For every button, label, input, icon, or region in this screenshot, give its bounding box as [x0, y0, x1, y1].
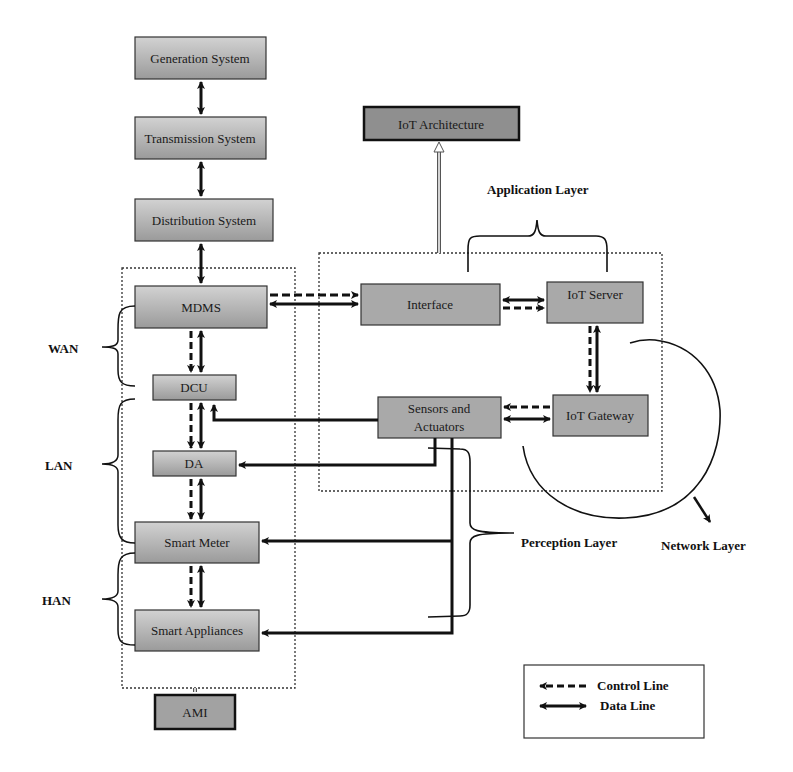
mdms-label: MDMS [181, 300, 221, 315]
iot-server-box[interactable]: IoT Server [547, 282, 643, 323]
interface-label: Interface [407, 297, 453, 312]
sensors-line1: Sensors and [408, 401, 471, 416]
legend-control-label: Control Line [597, 678, 669, 693]
ami-label: AMI [182, 705, 207, 720]
mdms-box[interactable]: MDMS [135, 286, 267, 328]
application-layer-label: Application Layer [487, 182, 589, 197]
transmission-system-box[interactable]: Transmission System [135, 117, 266, 159]
iot-server-label: IoT Server [567, 287, 623, 302]
distribution-system-label: Distribution System [152, 213, 256, 228]
han-brace [102, 553, 135, 645]
interface-server-links [503, 300, 544, 308]
mdms-interface-links [270, 295, 358, 304]
generation-system-box[interactable]: Generation System [135, 37, 266, 79]
iot-gateway-label: IoT Gateway [566, 408, 634, 423]
iot-hollow-arrow [434, 142, 444, 253]
gateway-sensors-links [504, 407, 550, 419]
legend-data-label: Data Line [600, 698, 655, 713]
generation-system-label: Generation System [150, 51, 249, 66]
sensors-line2: Actuators [414, 419, 465, 434]
smart-appliances-label: Smart Appliances [151, 623, 243, 638]
transmission-system-label: Transmission System [144, 131, 255, 146]
ami-box[interactable]: AMI [155, 695, 235, 729]
da-label: DA [185, 456, 204, 471]
dcu-label: DCU [180, 380, 208, 395]
diagram-canvas: Generation System Transmission System Di… [0, 0, 793, 772]
sensors-actuators-box[interactable]: Sensors and Actuators [378, 397, 501, 438]
network-layer-label: Network Layer [661, 538, 746, 553]
iot-architecture-label: IoT Architecture [398, 117, 484, 132]
smart-meter-label: Smart Meter [164, 535, 230, 550]
lan-brace [102, 399, 135, 543]
wan-label: WAN [48, 341, 79, 356]
wan-brace [102, 306, 135, 386]
lan-label: LAN [45, 458, 73, 473]
application-layer-brace [468, 220, 607, 272]
perception-layer-brace [428, 448, 514, 617]
sensor-data-links [214, 405, 452, 633]
iot-architecture-box[interactable]: IoT Architecture [364, 107, 519, 140]
legend: Control Line Data Line [524, 665, 704, 738]
iot-gateway-box[interactable]: IoT Gateway [553, 395, 648, 436]
dcu-box[interactable]: DCU [153, 375, 236, 400]
distribution-system-box[interactable]: Distribution System [135, 199, 273, 241]
server-gateway-links [590, 326, 597, 392]
interface-box[interactable]: Interface [361, 284, 500, 325]
smart-meter-box[interactable]: Smart Meter [135, 522, 259, 563]
network-layer-arrow [694, 497, 710, 522]
da-box[interactable]: DA [153, 451, 236, 476]
han-label: HAN [42, 593, 72, 608]
smart-appliances-box[interactable]: Smart Appliances [135, 610, 259, 651]
perception-layer-label: Perception Layer [521, 535, 617, 550]
